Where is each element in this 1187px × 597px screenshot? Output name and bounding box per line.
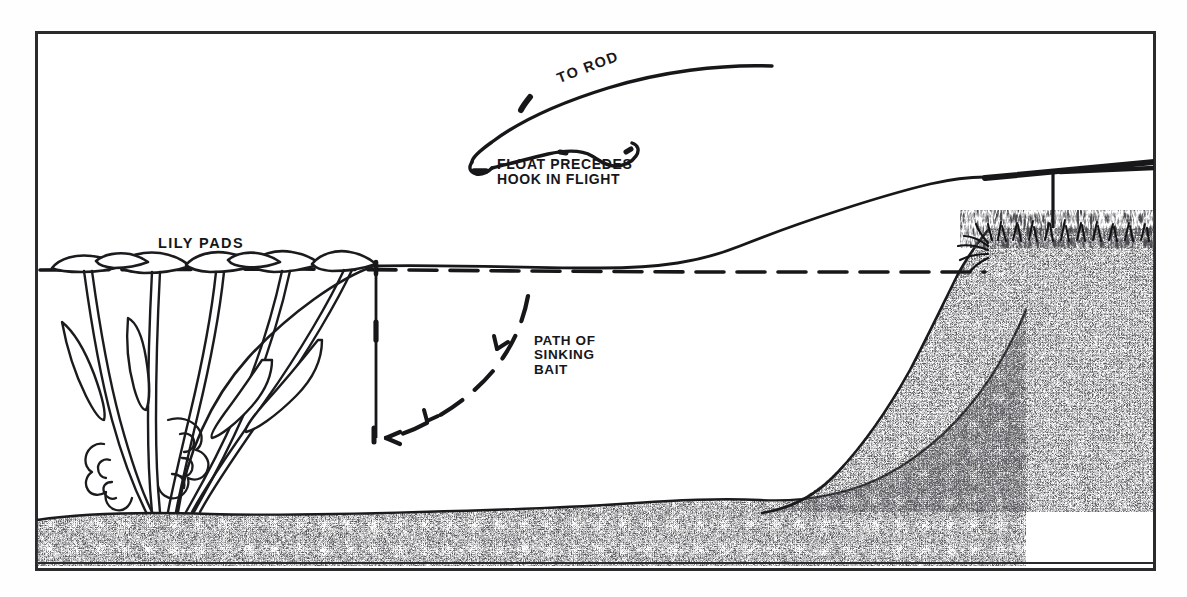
label-path-of-sinking-bait: PATH OF SINKING BAIT	[534, 334, 596, 377]
label-float-precedes-hook: FLOAT PRECEDES HOOK IN FLIGHT	[497, 157, 632, 187]
fishing-diagram	[0, 0, 1187, 597]
illustration-canvas: LILY PADS TO ROD FLOAT PRECEDES HOOK IN …	[0, 0, 1187, 597]
label-lily-pads: LILY PADS	[158, 236, 244, 251]
